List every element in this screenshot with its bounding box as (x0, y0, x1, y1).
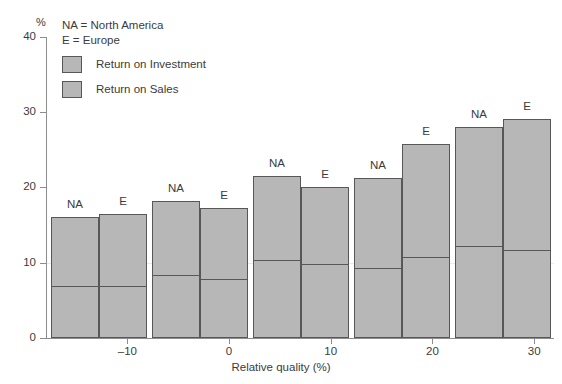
legend-swatch-icon (62, 56, 82, 73)
bar-region-label: E (321, 168, 329, 180)
legend-note-e: E = Europe (62, 33, 206, 48)
bar-segment-divider (254, 260, 300, 261)
bar-e-group-2 (200, 208, 248, 338)
bar-na-group-3 (253, 176, 301, 338)
bar-region-label: E (523, 100, 531, 112)
bar-e-group-4 (402, 144, 450, 338)
bar-na-group-2 (152, 201, 200, 338)
bar-segment-divider (302, 264, 348, 265)
bar-segment-divider (403, 257, 449, 258)
bar-region-label: NA (471, 108, 487, 120)
chart-container: % 010203040 –100102030 NAENAENAENAENAE R… (0, 0, 562, 384)
bar-segment-divider (100, 286, 146, 287)
bar-region-label: NA (168, 182, 184, 194)
bar-na-group-1 (51, 217, 99, 338)
bar-region-label: E (220, 189, 228, 201)
bar-region-label: NA (67, 198, 83, 210)
bar-na-group-4 (354, 178, 402, 338)
x-axis-title: Relative quality (%) (0, 361, 562, 373)
legend-swatch-icon (62, 81, 82, 98)
legend-note-na: NA = North America (62, 18, 206, 33)
bar-na-group-5 (455, 127, 503, 338)
bar-e-group-1 (99, 214, 147, 338)
legend: NA = North America E = Europe Return on … (62, 18, 206, 98)
bar-segment-divider (504, 250, 550, 251)
legend-label: Return on Sales (96, 82, 178, 97)
legend-entry-return-on-investment: Return on Investment (62, 56, 206, 73)
bar-segment-divider (355, 268, 401, 269)
bar-region-label: E (119, 195, 127, 207)
bar-region-label: E (422, 125, 430, 137)
bar-segment-divider (201, 279, 247, 280)
bar-region-label: NA (370, 159, 386, 171)
bar-e-group-5 (503, 119, 551, 338)
bar-segment-divider (52, 286, 98, 287)
bar-segment-divider (153, 275, 199, 276)
legend-label: Return on Investment (96, 57, 206, 72)
bar-segment-divider (456, 246, 502, 247)
legend-entry-return-on-sales: Return on Sales (62, 81, 206, 98)
bar-region-label: NA (269, 157, 285, 169)
bar-e-group-3 (301, 187, 349, 338)
